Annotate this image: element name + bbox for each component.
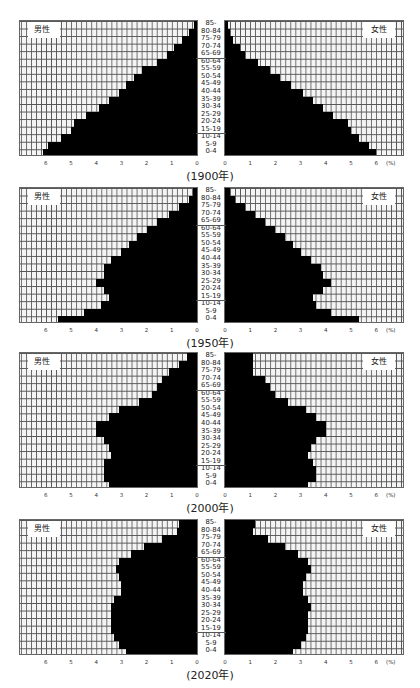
pyramid-bar: [119, 406, 197, 414]
pyramid-bar: [225, 309, 331, 317]
pyramid-bar: [84, 309, 197, 317]
male-axis-tick: 6: [44, 160, 48, 166]
female-label: 女性: [363, 189, 395, 205]
female-axis-tick: 4: [324, 659, 328, 665]
age-label: 5-9: [198, 141, 224, 149]
pyramid-bar: [225, 301, 316, 309]
pyramid-bar: [225, 29, 230, 37]
age-divider-line: [196, 465, 226, 466]
pyramid-bar: [194, 21, 197, 29]
pyramid-bar: [174, 44, 197, 52]
female-axis-tick: 2: [274, 659, 278, 665]
male-label: 男性: [28, 189, 60, 205]
pyramid-bar: [225, 51, 245, 59]
pyramid-bar: [48, 142, 197, 150]
pyramid-bar: [225, 21, 228, 29]
age-label: 20-24: [198, 118, 224, 126]
age-label: 25-29: [198, 610, 224, 618]
pyramid-bar: [111, 626, 197, 634]
pyramid-bar: [225, 466, 316, 474]
pyramid-bar: [119, 573, 197, 581]
age-label: 5-9: [198, 640, 224, 648]
percent-unit: (%): [386, 659, 396, 665]
male-label: 男性: [28, 521, 60, 537]
age-label: 80-84: [198, 527, 224, 535]
percent-unit: (%): [386, 160, 396, 166]
percent-unit: (%): [386, 492, 396, 498]
pyramid-bar: [225, 383, 270, 391]
pyramid-bar: [225, 459, 313, 467]
age-label: 25-29: [198, 111, 224, 119]
male-axis-tick: 1: [170, 327, 174, 333]
pyramid-bar: [225, 641, 301, 649]
age-label: 75-79: [198, 534, 224, 542]
age-label: 30-34: [198, 103, 224, 111]
age-label: 50-54: [198, 240, 224, 248]
pyramid-bar: [225, 633, 306, 641]
female-axis-tick: 4: [324, 492, 328, 498]
age-label: 55-59: [198, 564, 224, 572]
male-label: 男性: [28, 354, 60, 370]
age-label: 85-: [198, 20, 224, 28]
pyramid-bar: [109, 413, 197, 421]
male-axis-tick: 4: [94, 492, 98, 498]
pyramid-chart: 男性女性0-45-910-1415-1920-2425-2930-3435-39…: [0, 187, 420, 353]
pyramid-bar: [225, 112, 333, 120]
age-label: 85-: [198, 519, 224, 527]
pyramid-bar: [225, 618, 308, 626]
pyramid-bar: [131, 550, 197, 558]
pyramid-bar: [225, 286, 323, 294]
female-axis-tick: 0: [223, 327, 227, 333]
age-label: 10-14: [198, 133, 224, 141]
pyramid-bar: [61, 134, 197, 142]
age-label: 45-49: [198, 80, 224, 88]
age-axis: 0-45-910-1415-1920-2425-2930-3435-3940-4…: [198, 519, 224, 655]
age-label: 35-39: [198, 595, 224, 603]
age-label: 40-44: [198, 255, 224, 263]
age-label: 50-54: [198, 73, 224, 81]
male-axis-tick: 5: [69, 160, 73, 166]
age-label: 15-19: [198, 293, 224, 301]
male-axis-tick: 0: [195, 492, 199, 498]
female-axis-tick: 0: [223, 160, 227, 166]
pyramid-bar: [109, 444, 197, 452]
age-label: 0-4: [198, 148, 224, 156]
female-axis-tick: 3: [299, 327, 303, 333]
age-label: 45-49: [198, 579, 224, 587]
pyramid-bar: [225, 226, 275, 234]
female-axis-tick: 4: [324, 160, 328, 166]
pyramid-bar: [225, 74, 280, 82]
age-label: 85-: [198, 352, 224, 360]
pyramid-bar: [225, 149, 376, 156]
pyramid-bar: [225, 474, 316, 482]
pyramid-bar: [225, 97, 313, 105]
female-label: 女性: [363, 521, 395, 537]
age-label: 65-69: [198, 382, 224, 390]
male-axis-tick: 3: [120, 160, 124, 166]
pyramid-bar: [121, 588, 197, 596]
pyramid-bar: [179, 203, 197, 211]
male-panel: 男性: [19, 187, 198, 323]
pyramid-bar: [104, 459, 197, 467]
pyramid-bar: [58, 316, 197, 323]
pyramid-bar: [225, 413, 316, 421]
female-axis-tick: 5: [349, 659, 353, 665]
male-axis-tick: 6: [44, 492, 48, 498]
pyramid-bar: [179, 520, 197, 528]
female-axis-tick: 2: [274, 160, 278, 166]
age-label: 70-74: [198, 375, 224, 383]
male-axis-tick: 4: [94, 160, 98, 166]
pyramid-bar: [111, 611, 197, 619]
age-label: 50-54: [198, 405, 224, 413]
age-label: 75-79: [198, 35, 224, 43]
female-axis-tick: 0: [223, 492, 227, 498]
pyramid-bar: [104, 436, 197, 444]
pyramid-bar: [137, 233, 197, 241]
pyramid-bar: [225, 316, 359, 323]
year-caption: (2020年): [0, 666, 420, 682]
pyramid-bar: [111, 256, 197, 264]
male-axis-tick: 4: [94, 327, 98, 333]
age-label: 10-14: [198, 300, 224, 308]
pyramid-bar: [225, 353, 253, 361]
male-axis-tick: 3: [120, 492, 124, 498]
